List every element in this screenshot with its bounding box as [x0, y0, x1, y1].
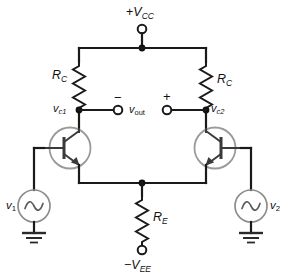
vout-symbol: v [129, 103, 135, 115]
v2-subscript: 2 [276, 204, 280, 213]
vc1-node-group [76, 106, 123, 128]
vout-subscript: out [135, 108, 145, 117]
circuit-diagram: +VCC RC RC vc1 vc2 − + vout RE −VEE v1 v… [0, 0, 285, 280]
vout-positive-terminal[interactable] [163, 106, 172, 115]
vc1-symbol: v [53, 102, 59, 114]
vout-negative-terminal[interactable] [114, 106, 123, 115]
vc1-subscript: c1 [59, 107, 67, 116]
re-zigzag [136, 196, 148, 245]
vee-terminal[interactable] [138, 246, 147, 255]
rc-left-zigzag [73, 62, 85, 112]
vc1-label: vc1 [53, 103, 66, 114]
vc2-subscript: c2 [217, 107, 225, 116]
vc2-symbol: v [211, 102, 217, 114]
vee-subscript: EE [140, 264, 151, 274]
q1-collector-lead [64, 131, 79, 142]
schematic-canvas [0, 0, 285, 280]
q2-collector-lead [206, 131, 221, 142]
re-subscript: E [162, 216, 168, 226]
vc2-node-group [163, 106, 210, 128]
transistor-q1-group [34, 128, 91, 191]
vout-label: vout [129, 104, 145, 115]
transistor-q2-group [195, 128, 252, 191]
rc-left-resistor-group [73, 62, 85, 112]
vcc-label: +VCC [126, 6, 154, 19]
source-v1-group [18, 190, 50, 243]
v2-sine-icon [242, 202, 260, 210]
vee-label: −VEE [124, 259, 151, 272]
re-symbol: R [153, 210, 162, 224]
vout-negative-sign: − [114, 91, 122, 104]
vee-supply-group [138, 246, 147, 255]
vout-positive-sign: + [163, 90, 171, 103]
rc-left-symbol: R [52, 68, 61, 82]
source-v2-group [235, 190, 267, 243]
v1-label: v1 [6, 200, 16, 212]
rc-right-subscript: C [226, 78, 232, 88]
vcc-symbol: V [133, 5, 141, 19]
v2-symbol: v [270, 199, 276, 211]
bottom-rail-group [79, 180, 206, 196]
re-resistor-group [136, 196, 148, 245]
vcc-terminal[interactable] [138, 25, 147, 34]
v1-symbol: v [6, 199, 12, 211]
v2-ground-symbol [239, 233, 263, 243]
vcc-subscript: CC [142, 11, 154, 21]
v1-ground-symbol [22, 233, 46, 243]
v1-subscript: 1 [12, 204, 16, 213]
vc2-label: vc2 [211, 103, 224, 114]
re-label: RE [153, 211, 168, 224]
rc-left-subscript: C [61, 74, 67, 84]
rc-right-label: RC [217, 73, 232, 86]
rc-left-label: RC [52, 69, 67, 82]
rc-right-symbol: R [217, 72, 226, 86]
v2-label: v2 [270, 200, 280, 212]
vee-symbol: V [131, 258, 139, 272]
v1-sine-icon [25, 202, 43, 210]
